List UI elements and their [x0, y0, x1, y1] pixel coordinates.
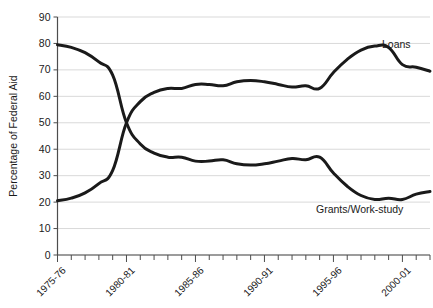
x-tick-label: 1995-96 [310, 264, 344, 298]
y-tick-label: 50 [39, 116, 51, 128]
x-tick-label: 1975-76 [34, 264, 68, 298]
y-tick-label: 20 [39, 196, 51, 208]
figure-caption-clipped [0, 300, 433, 308]
y-tick-label: 70 [39, 63, 51, 75]
series-label-grants-work-study: Grants/Work-study [316, 203, 404, 215]
chart-canvas: 0102030405060708090 1975-761980-811985-8… [0, 0, 433, 308]
x-tick-label: 1990-91 [241, 264, 275, 298]
x-tick-label: 1985-86 [172, 264, 206, 298]
y-tick-label: 80 [39, 37, 51, 49]
line-chart: 0102030405060708090 1975-761980-811985-8… [0, 0, 433, 308]
x-axis-tick-labels: 1975-761980-811985-861990-911995-962000-… [34, 264, 413, 298]
y-tick-label: 40 [39, 143, 51, 155]
series-line-grants-work-study [58, 45, 431, 200]
series-annotations: LoansGrants/Work-study [316, 38, 411, 215]
series-label-loans: Loans [382, 38, 411, 50]
x-tick-label: 2000-01 [379, 264, 413, 298]
gridlines [58, 17, 431, 255]
x-tick-label: 1980-81 [103, 264, 137, 298]
y-tick-label: 60 [39, 90, 51, 102]
x-axis-ticks [58, 255, 431, 262]
y-tick-label: 10 [39, 222, 51, 234]
y-tick-label: 30 [39, 169, 51, 181]
y-axis-tick-labels: 0102030405060708090 [39, 11, 58, 261]
y-axis-title: Percentage of Federal Aid [7, 75, 19, 197]
y-tick-label: 0 [45, 249, 51, 261]
y-tick-label: 90 [39, 11, 51, 23]
axes [58, 17, 431, 255]
